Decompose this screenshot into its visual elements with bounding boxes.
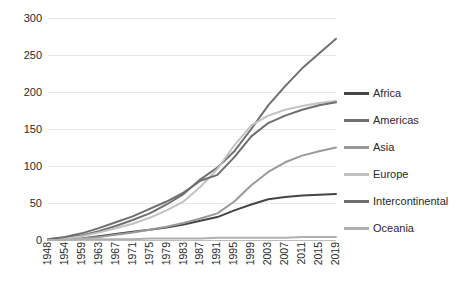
legend-label: Americas bbox=[373, 115, 419, 126]
legend-label: Intercontinental bbox=[373, 196, 448, 207]
x-tick-label: 1954 bbox=[59, 242, 70, 265]
legend-label: Africa bbox=[373, 88, 401, 99]
legend-item-asia[interactable]: Asia bbox=[344, 134, 456, 161]
series-line-europe bbox=[48, 101, 336, 239]
x-axis: 1948195419591963196719711975197919831987… bbox=[48, 242, 336, 286]
legend-label: Europe bbox=[373, 169, 408, 180]
legend-swatch-icon bbox=[344, 173, 369, 176]
y-tick-label: 300 bbox=[24, 13, 42, 24]
x-tick-label: 1991 bbox=[211, 242, 222, 265]
x-tick-label: 2007 bbox=[279, 242, 290, 265]
legend-item-intercontinental[interactable]: Intercontinental bbox=[344, 188, 456, 215]
legend-item-americas[interactable]: Americas bbox=[344, 107, 456, 134]
x-tick-label: 1979 bbox=[161, 242, 172, 265]
x-tick-label: 1959 bbox=[76, 242, 87, 265]
legend: AfricaAmericasAsiaEuropeIntercontinental… bbox=[344, 80, 456, 242]
x-tick-label: 1971 bbox=[127, 242, 138, 265]
x-tick-label: 1995 bbox=[228, 242, 239, 265]
x-tick-label: 1967 bbox=[110, 242, 121, 265]
legend-swatch-icon bbox=[344, 119, 369, 122]
x-tick-label: 1948 bbox=[42, 242, 53, 265]
x-tick-label: 2015 bbox=[313, 242, 324, 265]
legend-swatch-icon bbox=[344, 227, 369, 230]
y-tick-label: 100 bbox=[24, 161, 42, 172]
series-line-americas bbox=[48, 39, 336, 240]
y-tick-label: 200 bbox=[24, 87, 42, 98]
x-tick-label: 2003 bbox=[262, 242, 273, 265]
x-tick-label: 1987 bbox=[194, 242, 205, 265]
legend-swatch-icon bbox=[344, 92, 369, 95]
x-tick-label: 1963 bbox=[93, 242, 104, 265]
series-line-intercontinental bbox=[48, 102, 336, 239]
x-tick-label: 2019 bbox=[330, 242, 341, 265]
y-tick-label: 50 bbox=[30, 198, 42, 209]
plot-area bbox=[48, 18, 336, 240]
x-tick-label: 2011 bbox=[296, 242, 307, 265]
x-tick-label: 1999 bbox=[245, 242, 256, 265]
legend-label: Asia bbox=[373, 142, 394, 153]
x-tick-label: 1983 bbox=[178, 242, 189, 265]
legend-label: Oceania bbox=[373, 223, 414, 234]
legend-swatch-icon bbox=[344, 146, 369, 149]
legend-swatch-icon bbox=[344, 200, 369, 203]
y-tick-label: 250 bbox=[24, 50, 42, 61]
series-layer bbox=[48, 18, 336, 240]
line-chart: 050100150200250300 194819541959196319671… bbox=[0, 0, 456, 287]
x-tick-label: 1975 bbox=[144, 242, 155, 265]
legend-item-oceania[interactable]: Oceania bbox=[344, 215, 456, 242]
y-tick-label: 150 bbox=[24, 124, 42, 135]
legend-item-africa[interactable]: Africa bbox=[344, 80, 456, 107]
y-axis: 050100150200250300 bbox=[0, 0, 42, 287]
legend-item-europe[interactable]: Europe bbox=[344, 161, 456, 188]
